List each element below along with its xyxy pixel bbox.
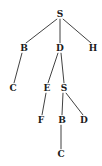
tree-node-label: D (80, 116, 89, 125)
tree-edge (61, 53, 64, 83)
tree-edge (63, 19, 91, 43)
tree-diagram: SBDHCESFBDC (0, 0, 102, 166)
tree-edge (14, 53, 22, 83)
tree-node-label: C (57, 150, 65, 159)
tree-node-label: B (20, 44, 29, 53)
tree-node-label: S (60, 84, 68, 93)
tree-edge (48, 53, 58, 83)
tree-edge (42, 93, 46, 115)
tree-edge (66, 93, 83, 115)
tree-node-label: F (37, 116, 44, 125)
tree-node-label: E (43, 84, 51, 93)
tree-node-label: B (58, 116, 67, 125)
tree-node-label: C (9, 84, 17, 93)
tree-edge (62, 93, 63, 115)
tree-node-label: D (56, 44, 65, 53)
tree-edge (26, 19, 57, 43)
tree-node-label: S (56, 10, 64, 19)
tree-node-label: H (88, 44, 98, 53)
